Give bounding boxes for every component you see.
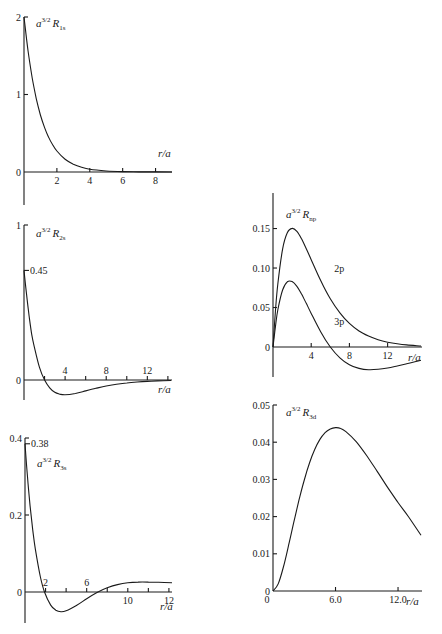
x-tick-label: 4: [309, 350, 314, 361]
x-tick-label: 6: [84, 577, 89, 588]
y-tick-label: 0.2: [10, 510, 23, 521]
function-label: a3/2Rnp: [286, 207, 317, 223]
function-label: a3/2R3d: [286, 405, 317, 421]
y-tick-label: 0.02: [253, 511, 271, 522]
function-label: a3/2R2s: [36, 226, 66, 242]
x-tick-label: 6.0: [329, 594, 342, 605]
y-tick-label: 0.4: [10, 433, 23, 444]
x-axis-label: r/a: [160, 600, 173, 612]
x-tick-label: 8: [104, 365, 109, 376]
x-tick-label: 8: [153, 175, 158, 186]
x-tick-label: 4: [87, 175, 92, 186]
x-tick-label: 2: [43, 577, 48, 588]
x-tick-label: 10: [123, 595, 133, 606]
panel-r2s: 100.454812r/aa3/2R2s: [16, 220, 172, 401]
series-label-2p: 2p: [334, 263, 344, 274]
y-tick-label: 0.15: [253, 223, 271, 234]
panel-rnp: 0.150.100.0504812r/aa3/2Rnp2p3p: [253, 193, 423, 377]
y-tick-label: 0: [265, 342, 270, 353]
annotation-label: 0.38: [31, 438, 49, 449]
x-axis-label: r/a: [158, 147, 171, 159]
y-tick-label: 0: [17, 587, 22, 598]
curve-1s: [24, 17, 172, 172]
curve-2p: [273, 228, 421, 347]
y-tick-label: 0.01: [253, 548, 271, 559]
x-origin-label: 0: [265, 594, 270, 605]
curve-3d: [273, 428, 421, 591]
y-tick-label: 1: [16, 89, 21, 100]
y-tick-label: 0.10: [253, 263, 271, 274]
function-label: a3/2R1s: [36, 16, 66, 32]
x-tick-label: 2: [54, 175, 59, 186]
y-tick-label: 0.04: [253, 437, 271, 448]
curve-2s: [24, 270, 171, 394]
annotation-label: 0.45: [30, 265, 48, 276]
y-tick-label: 1: [16, 220, 21, 231]
x-axis-label: r/a: [158, 383, 171, 395]
panel-r1s: 2102468r/aa3/2R1s: [16, 12, 172, 206]
y-tick-label: 0.03: [253, 474, 271, 485]
x-axis-label: r/a: [406, 595, 419, 607]
function-label: a3/2R3s: [37, 456, 67, 472]
panel-r3s: 0.40.200.38261012r/aa3/2R3s: [10, 433, 174, 624]
x-tick-label: 12.0: [389, 594, 407, 605]
x-tick-label: 4: [63, 365, 68, 376]
y-tick-label: 0: [16, 167, 21, 178]
x-tick-label: 8: [347, 350, 352, 361]
panel-r3d: 0.050.040.030.020.0106.012.00r/aa3/2R3d: [253, 400, 423, 608]
y-tick-label: 0.05: [253, 302, 271, 313]
y-tick-label: 0.05: [253, 400, 271, 411]
x-tick-label: 12: [142, 365, 152, 376]
x-tick-label: 6: [120, 175, 125, 186]
y-tick-label: 0: [16, 375, 21, 386]
radial-wavefunction-figure: 2102468r/aa3/2R1s100.454812r/aa3/2R2s0.4…: [0, 0, 442, 634]
series-label-3p: 3p: [334, 316, 344, 327]
x-tick-label: 12: [383, 350, 393, 361]
y-tick-label: 2: [16, 12, 21, 23]
